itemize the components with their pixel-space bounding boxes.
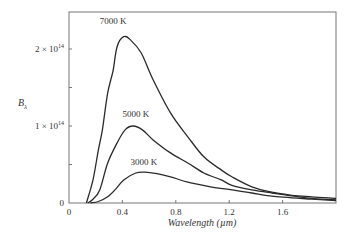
curve-label-5000-k: 5000 K xyxy=(122,109,149,119)
x-tick-label: 0 xyxy=(67,207,72,217)
y-tick-label: 2 × 1014 xyxy=(35,43,64,54)
y-tick-label-exp: 14 xyxy=(58,120,64,126)
y-tick-label-main: 0 xyxy=(60,198,65,208)
curve-label-3000-k: 3000 K xyxy=(130,157,157,167)
x-axis-title: Wavelength (µm) xyxy=(168,217,237,229)
curve-5000-k xyxy=(88,126,336,203)
y-tick-label: 0 xyxy=(60,198,65,208)
axis-ticks: 00.40.81.21.601 × 10142 × 1014 xyxy=(35,43,289,217)
curve-7000-k xyxy=(86,36,336,203)
y-tick-label-main: 2 × 10 xyxy=(35,44,59,54)
y-tick-label-exp: 14 xyxy=(58,43,64,49)
curves xyxy=(86,36,336,203)
plot-frame xyxy=(69,12,336,203)
x-tick-label: 0.8 xyxy=(170,207,182,217)
y-tick-label: 1 × 1014 xyxy=(35,120,64,131)
y-axis-title-sub: λ xyxy=(23,103,27,111)
x-tick-label: 0.4 xyxy=(117,207,129,217)
x-tick-label: 1.2 xyxy=(224,207,235,217)
x-tick-label: 1.6 xyxy=(277,207,289,217)
y-tick-label-main: 1 × 10 xyxy=(35,121,59,131)
y-axis-title: Bλ xyxy=(18,97,27,111)
plot-border xyxy=(69,12,336,203)
curve-label-7000-k: 7000 K xyxy=(100,16,127,26)
blackbody-chart: 00.40.81.21.601 × 10142 × 1014 7000 K500… xyxy=(0,0,354,242)
